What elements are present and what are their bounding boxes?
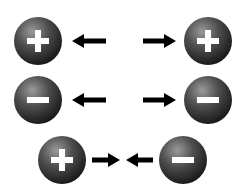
row3-arrow-right-icon <box>92 153 120 167</box>
row-like-negative-repel <box>14 76 232 124</box>
left-sphere-negative-charge-icon <box>14 76 62 124</box>
right-sphere-negative-charge-icon <box>159 136 207 184</box>
minus-bar <box>27 97 49 103</box>
right-sphere-negative-charge-icon <box>184 76 232 124</box>
plus-vertical-bar <box>205 30 211 52</box>
minus-bar <box>197 97 219 103</box>
row1-arrow-right-icon <box>143 34 176 48</box>
row2-arrow-right-icon <box>143 93 176 107</box>
left-sphere-positive-charge-icon <box>14 17 62 65</box>
minus-bar <box>172 157 194 163</box>
row-like-positive-repel <box>14 17 232 65</box>
row-opposite-attract <box>38 136 207 184</box>
row2-arrow-left-icon <box>72 93 106 107</box>
right-sphere-positive-charge-icon <box>184 17 232 65</box>
charge-interaction-diagram <box>0 0 250 189</box>
left-sphere-positive-charge-icon <box>38 136 86 184</box>
row1-arrow-left-icon <box>72 34 106 48</box>
plus-vertical-bar <box>35 30 41 52</box>
row3-arrow-left-icon <box>126 153 153 167</box>
plus-vertical-bar <box>59 149 65 171</box>
